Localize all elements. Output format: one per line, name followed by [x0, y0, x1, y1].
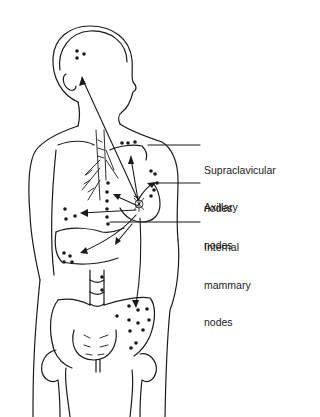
lungs-outline	[55, 141, 147, 264]
head-outline	[53, 26, 136, 126]
metastasis-dots	[62, 49, 159, 350]
internal-mammary-label-line2: mammary	[204, 279, 251, 292]
internal-mammary-label-line1: Internal	[204, 241, 251, 254]
bronchi	[82, 130, 118, 200]
internal-mammary-label-line3: nodes	[204, 316, 251, 329]
supraclavicular-label-line1: Supraclavicular	[204, 164, 276, 177]
internal-mammary-label: Internal mammary nodes	[204, 216, 251, 341]
axillary-label-line1: Axillary	[204, 201, 238, 214]
